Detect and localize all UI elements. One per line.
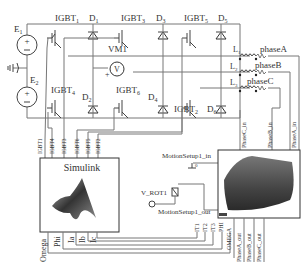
port-phi-label: Phi — [53, 236, 62, 247]
label-d4: D4 — [148, 92, 158, 103]
port-ib-label: Ib — [78, 236, 87, 243]
label-d3: D3 — [156, 13, 166, 24]
out-phasec-label: PhaseC_out — [256, 233, 262, 262]
speed-source-label: V_ROT1 — [141, 189, 168, 197]
motion-setup-in: MotionSetup1_in 0 — [162, 152, 218, 168]
svg-text:L2: L2 — [230, 62, 238, 72]
out-omega-label: OMEGA — [226, 227, 232, 250]
motion-setup-block[interactable] — [218, 150, 300, 218]
gate-igbt6-label: IGBT6 — [74, 138, 80, 154]
svg-text:+: + — [24, 36, 29, 46]
out-it3-label: IT3 — [210, 223, 216, 232]
source-e2-label: E2 — [30, 75, 39, 86]
out-phasea-label: PhaseA_out — [236, 233, 242, 262]
ground-icon — [8, 63, 27, 73]
label-d5: D5 — [218, 13, 228, 24]
speed-source-vrot1: V_ROT1 MotionSetup1_out — [141, 184, 218, 216]
label-igbt4: IGBT4 — [51, 85, 75, 96]
source-e1: + E1 — [14, 24, 37, 55]
port-omega-label: Omega — [39, 238, 48, 262]
phase-c-label: phaseC — [247, 76, 274, 86]
circuit-diagram: + E1 + E2 — [0, 0, 304, 273]
gate-igbt1-label: IGBT1 — [37, 138, 43, 154]
label-d6: D6 — [207, 104, 217, 115]
label-igbt1: IGBT1 — [55, 13, 79, 24]
out-it2-label: IT2 — [202, 223, 208, 232]
motion-out-label: MotionSetup1_out — [158, 208, 211, 216]
voltmeter-plus: + — [105, 70, 110, 79]
source-e2: + E2 — [17, 75, 39, 107]
label-igbt5: IGBT5 — [184, 13, 208, 24]
label-d1: D1 — [89, 13, 99, 24]
port-ic-label: Ic — [89, 236, 98, 243]
phase-b-label: phaseB — [255, 60, 282, 70]
gate-igbt4-label: IGBT4 — [49, 138, 55, 154]
label-igbt3: IGBT3 — [121, 13, 145, 24]
port-ia-label: Ia — [67, 236, 76, 243]
label-d2: D2 — [82, 92, 92, 103]
out-phi-label: PHI — [218, 222, 224, 232]
igbt-6 — [114, 100, 128, 118]
out-it1-label: IT1 — [194, 223, 200, 232]
svg-text:MotionSetup1_in: MotionSetup1_in — [162, 152, 212, 160]
phaseb-in-label: PhaseB_in — [267, 122, 273, 148]
voltmeter-label: VM1 — [108, 44, 127, 54]
inductor-l3: L3 phaseC — [230, 76, 274, 92]
svg-text:L3: L3 — [230, 78, 238, 88]
igbt-4 — [47, 100, 61, 118]
inductor-l1: L1 phaseA — [233, 44, 287, 60]
label-igbt6: IGBT6 — [116, 85, 140, 96]
igbt-5 — [182, 30, 196, 48]
gate-igbt2-label: IGBT2 — [95, 138, 101, 154]
voltmeter-symbol: V — [114, 65, 120, 74]
voltmeter-vm1: V VM1 + — [105, 44, 127, 79]
label-igbt2: IGBT2 — [174, 104, 198, 115]
inductor-l2: L2 phaseB — [230, 60, 282, 76]
gate-igbt3-label: IGBT3 — [61, 138, 67, 154]
phasec-in-label: PhaseC_in — [241, 122, 247, 148]
igbt-1 — [47, 30, 61, 48]
simulink-title: Simulink — [64, 162, 101, 173]
phase-a-label: phaseA — [260, 44, 287, 54]
phasea-in-label: PhaseA_in — [291, 122, 297, 148]
svg-text:+: + — [24, 88, 29, 98]
source-e1-label: E1 — [14, 24, 23, 35]
out-phaseb-label: PhaseB_out — [246, 233, 252, 262]
svg-text:0: 0 — [195, 163, 198, 168]
gate-igbt5-label: IGBT5 — [85, 138, 91, 154]
phase-lines — [68, 56, 250, 88]
simulink-block[interactable]: Simulink — [40, 158, 119, 232]
